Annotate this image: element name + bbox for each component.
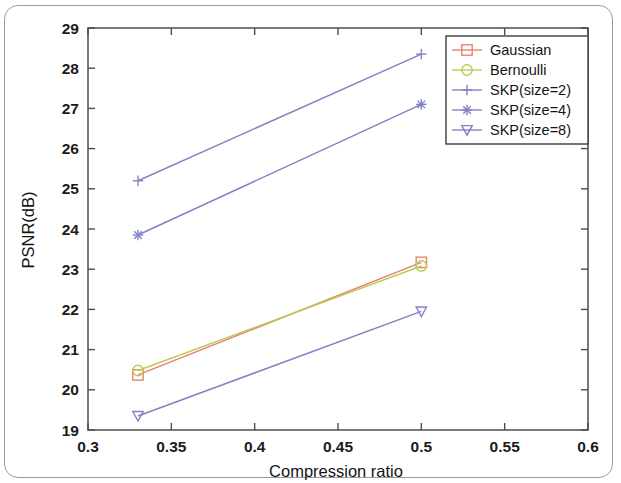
legend-item-bernoulli[interactable]: Bernoulli	[452, 62, 546, 78]
y-tick-label: 28	[62, 60, 80, 77]
y-tick-label: 29	[62, 20, 80, 37]
y-axis-title: PSNR(dB)	[19, 191, 37, 268]
chart-legend: GaussianBernoulliSKP(size=2)SKP(size=4)S…	[446, 36, 588, 144]
series-skp-size-8	[133, 307, 427, 421]
chart-canvas: 0.30.350.40.450.50.550.6 192021222324252…	[0, 0, 621, 483]
data-series-group	[133, 49, 427, 421]
y-tick-label: 26	[62, 140, 80, 157]
series-skp-size-2	[133, 49, 427, 186]
y-tick-label: 27	[62, 100, 79, 117]
legend-label: SKP(size=4)	[490, 102, 571, 118]
legend-item-gaussian[interactable]: Gaussian	[452, 42, 551, 58]
y-tick-label: 19	[62, 422, 80, 439]
y-tick-label: 21	[62, 341, 80, 358]
legend-label: Bernoulli	[490, 62, 546, 78]
y-tick-label: 24	[62, 221, 80, 238]
series-line	[138, 311, 421, 416]
data-point-marker	[133, 412, 143, 422]
y-tick-label: 22	[62, 301, 79, 318]
x-tick-label: 0.5	[411, 438, 433, 455]
x-tick-label: 0.6	[577, 438, 599, 455]
series-line	[138, 54, 421, 181]
legend-label: Gaussian	[490, 42, 551, 58]
x-tick-label: 0.3	[77, 438, 99, 455]
series-line	[138, 266, 421, 371]
y-tick-label: 25	[62, 180, 80, 197]
x-tick-label: 0.35	[156, 438, 187, 455]
x-tick-label: 0.55	[490, 438, 521, 455]
series-line	[138, 104, 421, 235]
x-axis-title: Compression ratio	[269, 462, 403, 480]
plot-svg: 0.30.350.40.450.50.550.6 192021222324252…	[0, 0, 621, 483]
series-skp-size-4	[133, 99, 427, 240]
x-tick-label: 0.45	[323, 438, 354, 455]
y-tick-label: 23	[62, 261, 80, 278]
y-tick-label: 20	[62, 381, 79, 398]
legend-label: SKP(size=2)	[490, 82, 571, 98]
x-tick-label: 0.4	[244, 438, 266, 455]
legend-label: SKP(size=8)	[490, 122, 571, 138]
